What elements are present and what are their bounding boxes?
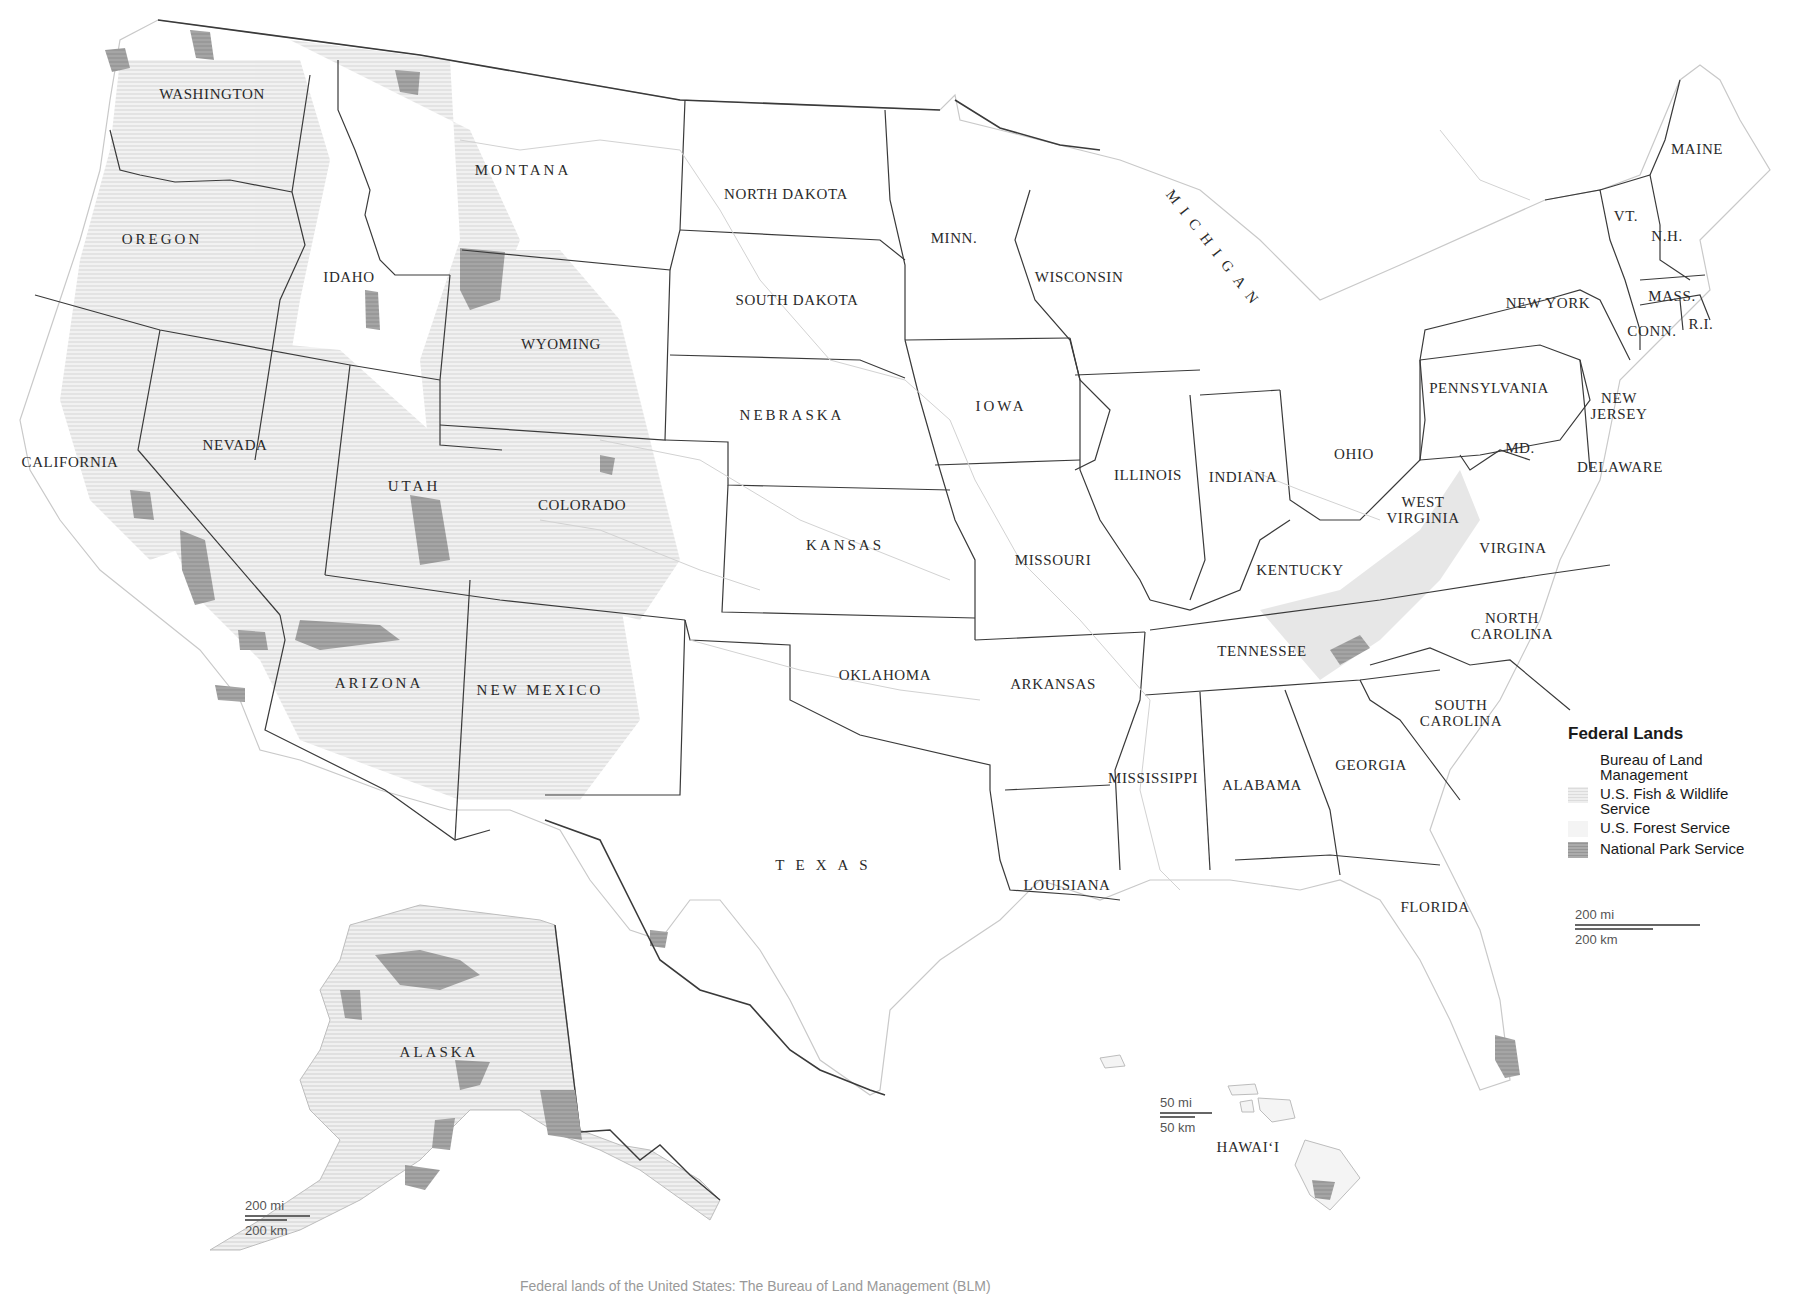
state-label-north-dakota: NORTH DAKOTA <box>724 186 848 202</box>
legend-item-nps: National Park Service <box>1568 841 1788 858</box>
scale-mi-bar <box>245 1215 310 1217</box>
state-label-kentucky: KENTUCKY <box>1256 562 1343 578</box>
state-label-new-hampshire: N.H. <box>1651 228 1683 244</box>
state-label-alaska: ALASKA <box>400 1044 479 1060</box>
state-label-connecticut: CONN. <box>1627 323 1676 339</box>
state-label-west-virginia: WEST VIRGINIA <box>1386 494 1459 526</box>
state-label-georgia: GEORGIA <box>1335 757 1407 773</box>
state-label-new-york: NEW YORK <box>1506 295 1590 311</box>
legend-item-blm: Bureau of Land Management <box>1568 752 1788 782</box>
state-label-washington: WASHINGTON <box>159 86 265 102</box>
state-label-indiana: INDIANA <box>1209 469 1277 485</box>
state-label-minnesota: MINN. <box>931 230 978 246</box>
state-label-new-jersey: NEW JERSEY <box>1591 390 1648 422</box>
state-label-nebraska: NEBRASKA <box>740 407 845 423</box>
state-label-north-carolina: NORTH CAROLINA <box>1471 610 1553 642</box>
legend-item-usfs: U.S. Forest Service <box>1568 820 1788 837</box>
state-label-south-dakota: SOUTH DAKOTA <box>735 292 858 308</box>
nps-swatch-icon <box>1568 842 1588 858</box>
map-caption: Federal lands of the United States: The … <box>520 1278 991 1294</box>
scale-km-label: 200 km <box>1575 932 1700 947</box>
state-label-delaware: DELAWARE <box>1577 459 1663 475</box>
state-label-mississippi: MISSISSIPPI <box>1108 770 1198 786</box>
scale-km-bar <box>1575 928 1653 930</box>
state-label-montana: MONTANA <box>475 162 571 178</box>
fws-swatch-icon <box>1568 787 1588 803</box>
scale-mi-label: 200 mi <box>245 1198 310 1213</box>
state-label-hawaii: HAWAIʻI <box>1217 1139 1280 1155</box>
scale-mi-label: 50 mi <box>1160 1095 1212 1110</box>
scale-mi-label: 200 mi <box>1575 907 1700 922</box>
state-label-utah: UTAH <box>388 478 440 494</box>
map-legend: Federal Lands Bureau of Land Management … <box>1568 724 1788 862</box>
state-label-wyoming: WYOMING <box>521 336 601 352</box>
scale-km-label: 50 km <box>1160 1120 1212 1135</box>
state-label-colorado: COLORADO <box>538 497 626 513</box>
blm-swatch-icon <box>1568 753 1588 769</box>
state-label-virginia: VIRGINA <box>1479 540 1547 556</box>
state-label-iowa: IOWA <box>975 398 1026 414</box>
state-label-rhode-island: R.I. <box>1689 316 1714 332</box>
state-label-maryland: MD. <box>1505 440 1535 456</box>
state-label-california: CALIFORNIA <box>22 454 119 470</box>
state-label-arizona: ARIZONA <box>335 675 424 691</box>
state-label-texas: TEXAS <box>775 857 878 873</box>
state-label-florida: FLORIDA <box>1400 899 1469 915</box>
state-label-ohio: OHIO <box>1334 446 1374 462</box>
scale-bar-alaska: 200 mi 200 km <box>245 1198 310 1238</box>
state-label-nevada: NEVADA <box>203 437 268 453</box>
state-label-south-carolina: SOUTH CAROLINA <box>1420 697 1502 729</box>
state-label-tennessee: TENNESSEE <box>1217 643 1307 659</box>
scale-mi-bar <box>1575 924 1700 926</box>
legend-label: U.S. Forest Service <box>1600 820 1730 835</box>
state-label-arkansas: ARKANSAS <box>1010 676 1096 692</box>
state-label-pennsylvania: PENNSYLVANIA <box>1429 380 1549 396</box>
state-label-kansas: KANSAS <box>806 537 884 553</box>
state-label-massachusetts: MASS. <box>1648 288 1696 304</box>
legend-label: National Park Service <box>1600 841 1744 856</box>
legend-title: Federal Lands <box>1568 724 1788 744</box>
scale-km-label: 200 km <box>245 1223 310 1238</box>
state-label-oklahoma: OKLAHOMA <box>839 667 931 683</box>
legend-label: U.S. Fish & Wildlife Service <box>1600 786 1728 816</box>
state-label-vermont: VT. <box>1614 208 1638 224</box>
state-label-maine: MAINE <box>1671 141 1723 157</box>
usfs-swatch-icon <box>1568 821 1588 837</box>
state-label-oregon: OREGON <box>122 231 203 247</box>
scale-bar-hawaii: 50 mi 50 km <box>1160 1095 1212 1135</box>
scale-km-bar <box>245 1219 287 1221</box>
state-label-alabama: ALABAMA <box>1222 777 1302 793</box>
scale-bar-main: 200 mi 200 km <box>1575 907 1700 947</box>
state-label-missouri: MISSOURI <box>1015 552 1091 568</box>
scale-km-bar <box>1160 1116 1195 1118</box>
legend-label: Bureau of Land Management <box>1600 752 1703 782</box>
hawaii-islands <box>1100 1055 1360 1210</box>
state-label-idaho: IDAHO <box>323 269 374 285</box>
state-label-wisconsin: WISCONSIN <box>1035 269 1124 285</box>
legend-item-fws: U.S. Fish & Wildlife Service <box>1568 786 1788 816</box>
state-label-illinois: ILLINOIS <box>1114 467 1182 483</box>
scale-mi-bar <box>1160 1112 1212 1114</box>
state-label-new-mexico: NEW MEXICO <box>477 682 604 698</box>
state-label-louisiana: LOUISIANA <box>1023 877 1110 893</box>
